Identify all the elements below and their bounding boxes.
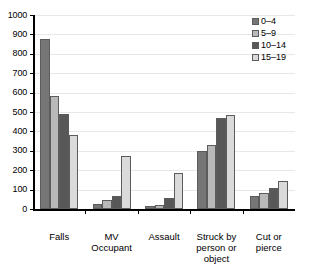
legend-label: 5–9	[261, 29, 276, 38]
bar[interactable]	[259, 193, 269, 209]
bar-group	[40, 15, 78, 209]
bar[interactable]	[216, 118, 226, 209]
y-tick-label: 700	[13, 69, 27, 78]
bar[interactable]	[226, 115, 236, 209]
bar[interactable]	[250, 196, 260, 209]
y-tick-label: 500	[13, 108, 27, 117]
bar[interactable]	[164, 198, 174, 209]
x-tick-mark	[190, 210, 191, 214]
bar[interactable]	[174, 173, 184, 209]
legend-item[interactable]: 15–19	[252, 52, 304, 63]
legend-label: 15–19	[261, 53, 286, 62]
bar[interactable]	[59, 114, 69, 209]
bar-group	[197, 15, 235, 209]
legend-label: 10–14	[261, 41, 286, 50]
bar[interactable]	[197, 151, 207, 209]
legend-swatch-icon	[252, 54, 259, 61]
legend-swatch-icon	[252, 42, 259, 49]
y-tick-label: 0	[22, 205, 27, 214]
bar[interactable]	[102, 200, 112, 209]
bar[interactable]	[93, 204, 103, 209]
x-tick-label: Cut or pierce	[243, 231, 295, 253]
legend-swatch-icon	[252, 18, 259, 25]
legend-item[interactable]: 0–4	[252, 16, 304, 27]
y-tick-label: 1000	[8, 11, 27, 20]
bar[interactable]	[278, 181, 288, 209]
x-tick-label: MV Occupant	[85, 231, 137, 253]
y-tick-label: 400	[13, 127, 27, 136]
y-axis: 10009008007006005004003002001000	[0, 0, 30, 259]
bar-group	[93, 15, 131, 209]
bar[interactable]	[207, 145, 217, 209]
x-tick-label: Struck by person or object	[190, 231, 242, 264]
bar[interactable]	[269, 188, 279, 209]
y-tick-label: 900	[13, 30, 27, 39]
x-tick-mark	[243, 210, 244, 214]
y-axis-line	[33, 15, 35, 209]
y-tick-label: 100	[13, 185, 27, 194]
bar[interactable]	[40, 39, 50, 209]
x-tick-mark	[85, 210, 86, 214]
bar[interactable]	[50, 96, 60, 209]
legend-item[interactable]: 10–14	[252, 40, 304, 51]
bar[interactable]	[69, 135, 79, 209]
legend-item[interactable]: 5–9	[252, 28, 304, 39]
legend: 0–45–910–1415–19	[252, 16, 304, 64]
x-axis-line	[33, 209, 295, 211]
bar[interactable]	[121, 156, 131, 209]
x-tick-label: Assault	[138, 231, 190, 242]
x-tick-mark	[138, 210, 139, 214]
x-tick-label: Falls	[33, 231, 85, 242]
bar[interactable]	[112, 196, 122, 209]
y-tick-label: 300	[13, 146, 27, 155]
y-tick-label: 200	[13, 166, 27, 175]
y-tick-label: 600	[13, 88, 27, 97]
y-tick-label: 800	[13, 49, 27, 58]
legend-swatch-icon	[252, 30, 259, 37]
legend-label: 0–4	[261, 17, 276, 26]
bar-group	[145, 15, 183, 209]
bar[interactable]	[155, 205, 165, 209]
bar[interactable]	[145, 206, 155, 209]
